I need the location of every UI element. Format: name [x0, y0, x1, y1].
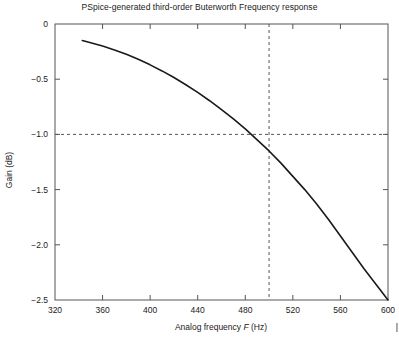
x-tick-label: 560	[333, 305, 347, 315]
y-tick-label: −2.0	[31, 240, 48, 250]
x-tick-label: 440	[191, 305, 205, 315]
x-tick-label: 360	[95, 305, 109, 315]
y-tick-label: −1.5	[31, 185, 48, 195]
y-tick-labels: 0−0.5−1.0−1.5−2.0−2.5	[31, 19, 48, 305]
y-axis-title: Gain (dB)	[4, 152, 14, 189]
x-tick-label: 600	[381, 305, 395, 315]
x-tick-label: 480	[238, 305, 252, 315]
x-axis-title-prefix: Analog frequency	[175, 322, 244, 332]
x-axis-title: Analog frequency F (Hz)	[175, 322, 267, 332]
x-axis-title-suffix: (Hz)	[249, 322, 268, 332]
x-tick-labels: 320360400440480520560600	[48, 305, 395, 315]
y-tick-label: −1.0	[31, 129, 48, 139]
tick-marks	[55, 24, 388, 300]
x-tick-label: 400	[143, 305, 157, 315]
series-layer	[82, 41, 388, 300]
x-tick-label: 320	[48, 305, 62, 315]
page-edge-mark: |	[396, 322, 398, 332]
chart-page: PSpice-generated third-order Buterworth …	[0, 0, 399, 340]
axes-rect	[55, 24, 388, 300]
plot-canvas: 320360400440480520560600 0−0.5−1.0−1.5−2…	[0, 0, 399, 340]
x-tick-label: 520	[286, 305, 300, 315]
plot-frame	[55, 24, 388, 300]
y-tick-label: −2.5	[31, 295, 48, 305]
y-tick-label: −0.5	[31, 74, 48, 84]
annotation-layer	[55, 24, 388, 300]
series-line-gain	[82, 41, 388, 300]
y-tick-label: 0	[43, 19, 48, 29]
